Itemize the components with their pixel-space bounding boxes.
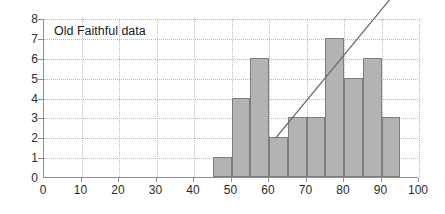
x-axis-tick-mark xyxy=(343,178,344,182)
x-axis-tick-mark xyxy=(156,178,157,182)
y-axis-tick-label: 8 xyxy=(4,12,38,26)
y-axis-tick-mark xyxy=(38,79,43,80)
histogram-bar xyxy=(269,137,288,177)
histogram-bar xyxy=(288,117,307,177)
y-axis-tick-label: 1 xyxy=(4,151,38,165)
x-axis-tick-label: 40 xyxy=(186,183,199,197)
x-axis-tick-label: 50 xyxy=(224,183,237,197)
x-axis-tick-mark xyxy=(268,178,269,182)
chart-title: Old Faithful data xyxy=(54,24,146,38)
y-axis-tick-mark xyxy=(38,59,43,60)
x-axis-tick-mark xyxy=(306,178,307,182)
y-axis-tick-mark xyxy=(38,99,43,100)
y-axis-tick-mark xyxy=(38,39,43,40)
x-axis-tick-mark xyxy=(381,178,382,182)
x-axis-tick-mark xyxy=(81,178,82,182)
histogram-bar xyxy=(344,78,363,177)
x-axis-tick-mark xyxy=(118,178,119,182)
y-axis-tick-label: 7 xyxy=(4,32,38,46)
y-axis-tick-label: 6 xyxy=(4,52,38,66)
histogram-bar xyxy=(213,157,232,177)
x-axis-tick-label: 30 xyxy=(149,183,162,197)
histogram-bar xyxy=(250,58,269,177)
histogram-bar xyxy=(325,38,344,177)
chart-container: 012345678 0102030405060708090100 Old Fai… xyxy=(0,0,445,214)
gridline-vertical xyxy=(419,19,420,177)
histogram-bar xyxy=(382,117,401,177)
y-axis-tick-label: 5 xyxy=(4,72,38,86)
y-axis-tick-mark xyxy=(38,118,43,119)
x-axis-tick-label: 100 xyxy=(408,183,428,197)
x-axis-tick-label: 20 xyxy=(111,183,124,197)
x-axis-tick-mark xyxy=(418,178,419,182)
x-axis-labels: 0102030405060708090100 xyxy=(0,183,445,203)
x-axis-tick-mark xyxy=(193,178,194,182)
x-axis-tick-label: 80 xyxy=(336,183,349,197)
x-axis-tick-label: 90 xyxy=(374,183,387,197)
histogram-bar xyxy=(232,98,251,178)
y-axis-labels: 012345678 xyxy=(0,0,38,214)
plot-area xyxy=(43,19,418,178)
x-axis-tick-label: 70 xyxy=(299,183,312,197)
x-axis-tick-label: 60 xyxy=(261,183,274,197)
y-axis-tick-mark xyxy=(38,158,43,159)
x-axis-tick-label: 0 xyxy=(40,183,47,197)
histogram-bar xyxy=(363,58,382,177)
y-axis-tick-label: 4 xyxy=(4,92,38,106)
y-axis-tick-mark xyxy=(38,138,43,139)
y-axis-tick-label: 2 xyxy=(4,131,38,145)
x-axis-tick-mark xyxy=(231,178,232,182)
y-axis-tick-mark xyxy=(38,19,43,20)
bars-layer xyxy=(44,19,418,177)
histogram-bar xyxy=(307,117,326,177)
y-axis-tick-label: 3 xyxy=(4,111,38,125)
x-axis-tick-label: 10 xyxy=(74,183,87,197)
